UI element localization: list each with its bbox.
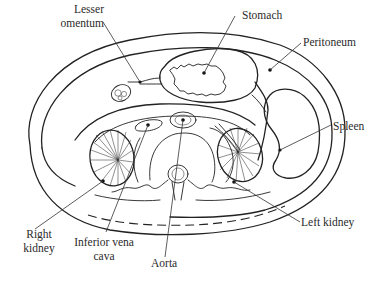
abdomen-cross-section-diagram: Lesser omentum Stomach Peritoneum Spleen… [0,0,384,284]
label-ivc-line1: Inferior vena [68,236,140,249]
label-lesser-omentum-line2: omentum [40,17,104,30]
spinal-canal-outer [168,165,188,183]
label-spleen: Spleen [333,120,364,133]
leader-stomach [204,16,235,73]
posterior-fascia-dashed [88,206,285,225]
portal-vessel-3 [118,96,122,100]
label-stomach: Stomach [242,9,282,22]
label-aorta: Aorta [151,257,177,270]
leader-right-kidney [35,181,103,229]
spinal-canal-inner [172,168,184,180]
vertebral-body [150,133,215,182]
label-left-kidney: Left kidney [301,216,354,229]
portal-vessel-2 [121,91,126,96]
leader-lesser-omentum [103,22,140,82]
transverse-process-right [112,180,168,192]
label-lesser-omentum-line1: Lesser [48,3,104,16]
peritoneum-line [42,48,332,218]
leader-left-kidney [234,182,300,222]
spleen [264,89,319,178]
peritoneum-left-lower [42,148,75,186]
body-wall-outer [29,32,345,234]
leader-aorta [165,120,183,257]
label-ivc-line2: cava [68,250,140,263]
lesser-omentum-fold [128,78,160,82]
label-peritoneum: Peritoneum [303,36,356,49]
stomach-rugae [170,64,226,96]
label-right-kidney-line1: Right [18,228,60,241]
portal-vessel-1 [115,90,121,96]
label-right-kidney-line2: kidney [18,242,60,255]
leader-spleen [280,125,331,150]
stomach-outer [160,49,258,103]
